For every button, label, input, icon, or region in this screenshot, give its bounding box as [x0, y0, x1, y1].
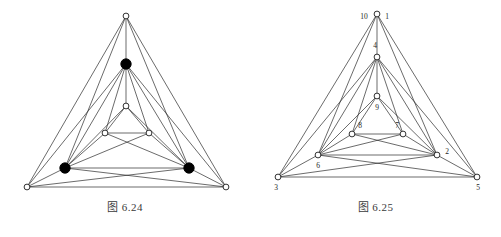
- graph-edge: [126, 64, 149, 133]
- graph-edge: [437, 155, 477, 177]
- graph-node-open[interactable]: [434, 152, 440, 158]
- graph-edge: [65, 168, 226, 187]
- graph-node-filled[interactable]: [184, 163, 194, 173]
- graph-edge: [377, 96, 403, 134]
- graph-node-label: 1: [385, 12, 389, 21]
- graph-edge: [352, 96, 377, 134]
- graph-edge: [318, 57, 377, 155]
- graph-node-label: 5: [476, 183, 480, 192]
- graph-edge: [403, 134, 437, 155]
- figure-6-25-panel: 11049876235 图 6.25: [250, 0, 501, 237]
- graph-node-open[interactable]: [374, 93, 380, 99]
- graph-node-open[interactable]: [223, 184, 229, 190]
- graph-edge: [65, 133, 149, 168]
- graph-edge: [318, 155, 477, 177]
- graph-node-open[interactable]: [275, 174, 281, 180]
- graph-edge: [278, 57, 377, 177]
- graph-edge: [318, 96, 377, 155]
- graph-edge: [377, 57, 437, 155]
- graph-edge: [65, 16, 126, 168]
- figure-6-24-graph: [0, 0, 250, 200]
- graph-edge: [126, 106, 149, 133]
- graph-node-label: 7: [395, 121, 399, 130]
- graph-edge: [352, 134, 437, 155]
- graph-edge: [65, 133, 105, 168]
- graph-node-label: 6: [316, 161, 320, 170]
- graph-edge: [278, 155, 318, 177]
- graph-edge: [105, 106, 126, 133]
- graph-node-label: 4: [373, 41, 377, 50]
- figure-6-24-panel: 图 6.24: [0, 0, 250, 237]
- node-group: [24, 13, 229, 190]
- figure-6-25-graph: 11049876235: [250, 0, 501, 200]
- graph-edge: [318, 134, 352, 155]
- graph-node-open[interactable]: [400, 131, 406, 137]
- graph-edge: [126, 106, 189, 168]
- edge-group: [27, 16, 226, 187]
- graph-edge: [65, 106, 126, 168]
- graph-node-open[interactable]: [374, 54, 380, 60]
- graph-edge: [149, 133, 189, 168]
- figure-6-25-caption: 图 6.25: [250, 198, 501, 214]
- figure-6-24-caption: 图 6.24: [0, 198, 250, 214]
- graph-node-label: 2: [445, 147, 449, 156]
- graph-node-open[interactable]: [102, 130, 108, 136]
- graph-node-filled[interactable]: [60, 163, 70, 173]
- graph-edge: [377, 57, 477, 177]
- graph-edge: [126, 16, 226, 187]
- graph-edge: [278, 155, 437, 177]
- graph-edge: [126, 64, 189, 168]
- graph-edge: [377, 96, 437, 155]
- graph-edge: [65, 64, 126, 168]
- graph-edge: [105, 64, 126, 133]
- graph-edge: [27, 16, 126, 187]
- graph-edge: [27, 168, 189, 187]
- graph-node-label: 8: [358, 121, 362, 130]
- graph-node-open[interactable]: [315, 152, 321, 158]
- graph-node-open[interactable]: [24, 184, 30, 190]
- graph-node-label: 9: [375, 103, 379, 112]
- graph-node-open[interactable]: [474, 174, 480, 180]
- graph-node-open[interactable]: [123, 103, 129, 109]
- graph-node-label: 10: [360, 12, 368, 21]
- graph-node-filled[interactable]: [121, 59, 131, 69]
- page-root: 图 6.24 11049876235 图 6.25: [0, 0, 501, 237]
- graph-edge: [352, 57, 377, 134]
- graph-edge: [126, 64, 226, 187]
- graph-edge: [377, 57, 403, 134]
- graph-node-open[interactable]: [349, 131, 355, 137]
- graph-node-open[interactable]: [146, 130, 152, 136]
- graph-node-open[interactable]: [123, 13, 129, 19]
- graph-node-open[interactable]: [374, 11, 380, 17]
- graph-node-label: 3: [274, 183, 278, 192]
- graph-edge: [318, 134, 403, 155]
